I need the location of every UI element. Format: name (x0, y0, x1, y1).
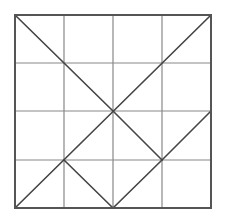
diagonal-center-to-lower-right-node (113, 111, 162, 160)
segment-lower-left-node-to-bottom-middle (64, 160, 113, 208)
segment-lower-right-node-to-bottom-middle (113, 160, 162, 208)
segment-right-middle-to-lower-right-node (162, 111, 211, 160)
grid-diagram (0, 0, 225, 221)
